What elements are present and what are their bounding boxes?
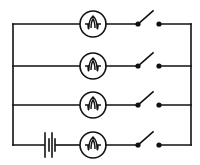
bulb-icon: [80, 11, 106, 37]
branch-1: [13, 11, 191, 37]
switch-lever: [138, 92, 153, 105]
switch-icon: [135, 92, 161, 108]
switch-icon: [135, 132, 161, 148]
switch-lever: [138, 11, 153, 24]
bulb-outline: [80, 92, 106, 118]
branch-3: [13, 92, 191, 118]
battery-icon: [45, 133, 55, 157]
bulb-outline: [80, 11, 106, 37]
bulb-icon: [80, 92, 106, 118]
switch-icon: [135, 11, 161, 27]
circuit-diagram: [0, 0, 200, 165]
bulb-outline: [80, 53, 106, 79]
branch-4: [13, 132, 191, 158]
bulb-outline: [80, 132, 106, 158]
branch-2: [13, 53, 191, 79]
switch-lever: [138, 53, 153, 66]
bulb-icon: [80, 53, 106, 79]
bulb-icon: [80, 132, 106, 158]
switch-icon: [135, 53, 161, 69]
switch-lever: [138, 132, 153, 145]
